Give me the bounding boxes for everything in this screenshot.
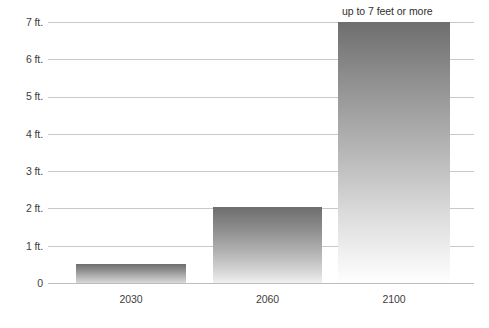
- y-axis-tick-4ft: 4 ft.: [3, 129, 43, 140]
- plot-area: [48, 18, 474, 283]
- x-axis-tick-2030: 2030: [76, 294, 186, 305]
- bar-2030: [76, 264, 186, 283]
- x-axis-tick-2060: 2060: [213, 294, 322, 305]
- bar-2060: [213, 207, 322, 283]
- x-axis-tick-2100: 2100: [338, 294, 450, 305]
- y-axis-tick-0: 0: [3, 278, 43, 289]
- y-axis-tick-6ft: 6 ft.: [3, 54, 43, 65]
- bar-2100-annotation: up to 7 feet or more: [342, 6, 433, 17]
- sea-level-rise-bar-chart: 7 ft. 6 ft. 5 ft. 4 ft. 3 ft. 2 ft. 1 ft…: [0, 0, 489, 328]
- y-axis-tick-1ft: 1 ft.: [3, 241, 43, 252]
- bar-2100: [338, 22, 450, 283]
- y-axis-tick-5ft: 5 ft.: [3, 91, 43, 102]
- axis-baseline: [48, 283, 474, 284]
- y-axis-tick-7ft: 7 ft.: [3, 17, 43, 28]
- y-axis-tick-2ft: 2 ft.: [3, 203, 43, 214]
- y-axis-tick-3ft: 3 ft.: [3, 166, 43, 177]
